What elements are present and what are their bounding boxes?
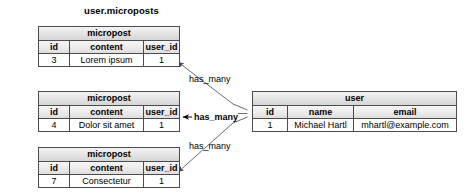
- cell-user-id: 1: [143, 54, 179, 66]
- cell-email: mhartl@example.com: [353, 119, 456, 131]
- table-row: 7 Consectetur 1: [39, 174, 179, 187]
- column-header-id: id: [39, 106, 69, 118]
- er-diagram: user.microposts micropost id content use…: [0, 0, 473, 196]
- column-header-user-id: user_id: [143, 106, 179, 118]
- cell-user-id: 1: [143, 119, 179, 131]
- table-title: user: [345, 92, 364, 105]
- cell-content: Lorem ipsum: [69, 54, 143, 66]
- column-header-email: email: [353, 106, 456, 118]
- column-header-id: id: [253, 106, 287, 118]
- column-header-id: id: [39, 41, 69, 53]
- micropost-table-2: micropost id content user_id 4 Dolor sit…: [38, 91, 180, 132]
- diagram-caption: user.microposts: [84, 5, 159, 16]
- table-row: 4 Dolor sit amet 1: [39, 118, 179, 131]
- table-title: micropost: [87, 148, 131, 161]
- table-header-row: id content user_id: [39, 105, 179, 118]
- cell-content: Consectetur: [69, 175, 143, 187]
- column-header-content: content: [69, 41, 143, 53]
- column-header-content: content: [69, 106, 143, 118]
- table-title-row: micropost: [39, 148, 179, 161]
- relationship-label-bottom: has_many: [189, 141, 231, 151]
- column-header-content: content: [69, 162, 143, 174]
- table-row: 1 Michael Hartl mhartl@example.com: [253, 118, 456, 131]
- cell-id: 7: [39, 175, 69, 187]
- table-header-row: id content user_id: [39, 161, 179, 174]
- table-title-row: micropost: [39, 27, 179, 40]
- micropost-table-3: micropost id content user_id 7 Consectet…: [38, 147, 180, 188]
- relationship-label-top: has_many: [189, 74, 231, 84]
- cell-content: Dolor sit amet: [69, 119, 143, 131]
- cell-id: 3: [39, 54, 69, 66]
- table-title: micropost: [87, 92, 131, 105]
- cell-id: 4: [39, 119, 69, 131]
- column-header-user-id: user_id: [143, 41, 179, 53]
- column-header-name: name: [287, 106, 353, 118]
- table-title: micropost: [87, 27, 131, 40]
- column-header-user-id: user_id: [143, 162, 179, 174]
- relationship-label-middle: has_many: [194, 112, 238, 122]
- table-header-row: id name email: [253, 105, 456, 118]
- connector-top: [178, 62, 248, 110]
- cell-user-id: 1: [143, 175, 179, 187]
- user-table: user id name email 1 Michael Hartl mhart…: [252, 91, 457, 132]
- column-header-id: id: [39, 162, 69, 174]
- table-title-row: user: [253, 92, 456, 105]
- table-title-row: micropost: [39, 92, 179, 105]
- micropost-table-1: micropost id content user_id 3 Lorem ips…: [38, 26, 180, 67]
- table-header-row: id content user_id: [39, 40, 179, 53]
- cell-id: 1: [253, 119, 287, 131]
- cell-name: Michael Hartl: [287, 119, 353, 131]
- table-row: 3 Lorem ipsum 1: [39, 53, 179, 66]
